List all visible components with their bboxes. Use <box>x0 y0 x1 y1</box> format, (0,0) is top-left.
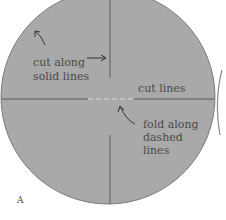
figure-letter: A <box>16 195 24 205</box>
label-fold-along-1: fold along <box>143 118 199 131</box>
label-cut-along-1: cut along <box>33 56 85 69</box>
folding-diagram: cut along solid lines cut lines fold alo… <box>0 0 226 220</box>
adjacent-circle-edge <box>217 70 222 135</box>
paper-circle <box>1 0 215 204</box>
label-fold-along-2: dashed <box>143 131 183 144</box>
diagram-canvas: cut along solid lines cut lines fold alo… <box>0 0 226 220</box>
label-cut-lines: cut lines <box>138 82 186 95</box>
label-fold-along-3: lines <box>143 144 170 157</box>
label-cut-along-2: solid lines <box>33 70 89 83</box>
